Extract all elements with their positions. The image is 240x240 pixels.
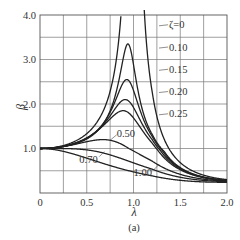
grid-lines bbox=[40, 15, 227, 193]
curve-label: 0.25 bbox=[169, 108, 187, 119]
x-axis-label: λ bbox=[130, 205, 136, 219]
curve-label: 0.10 bbox=[169, 42, 187, 53]
curve-label: ζ=0 bbox=[169, 19, 185, 31]
y-tick-label: 3.0 bbox=[23, 54, 36, 65]
curve-label: 0.20 bbox=[169, 86, 187, 97]
leader-line bbox=[154, 165, 159, 170]
x-tick-label: 1.5 bbox=[174, 197, 187, 208]
curve-label: 0.50 bbox=[117, 128, 135, 139]
curve-label: 0.70 bbox=[79, 154, 97, 165]
frequency-response-chart: ζ=00.100.150.200.250.500.701.00 00.51.01… bbox=[0, 0, 240, 240]
curve-label: 1.00 bbox=[134, 167, 152, 178]
x-tick-label: 2.0 bbox=[220, 197, 233, 208]
leader-line bbox=[159, 69, 168, 70]
leader-line bbox=[159, 25, 168, 26]
y-axis-ticks: 1.02.03.04.0 bbox=[23, 10, 36, 155]
y-tick-label: 1.0 bbox=[23, 143, 36, 154]
leader-line bbox=[159, 92, 168, 93]
leader-line bbox=[159, 114, 168, 115]
x-tick-label: 0.5 bbox=[80, 197, 93, 208]
figure-caption: (a) bbox=[128, 222, 140, 234]
curve-label: 0.15 bbox=[169, 64, 187, 75]
x-tick-label: 0 bbox=[37, 197, 42, 208]
y-tick-label: 4.0 bbox=[23, 10, 36, 21]
y-axis-label: β bbox=[14, 104, 28, 111]
leader-line bbox=[159, 47, 168, 48]
